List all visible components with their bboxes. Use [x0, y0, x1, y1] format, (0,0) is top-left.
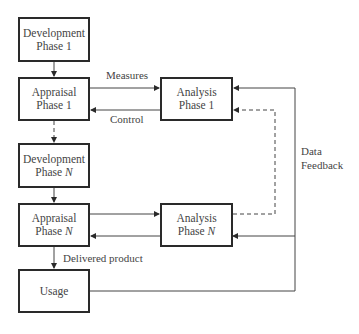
label-delivered-product: Delivered product [63, 252, 143, 264]
box-text: Phase 1 [179, 99, 214, 112]
box-text: Development [23, 153, 85, 166]
box-text: Phase N [178, 225, 215, 238]
box-text: Phase 1 [36, 99, 71, 112]
box-text: Phase N [35, 225, 72, 238]
box-development-phase-1: Development Phase 1 [18, 17, 90, 62]
box-text: Analysis [176, 86, 216, 99]
label-measures: Measures [106, 69, 148, 81]
box-text: Usage [40, 285, 69, 298]
box-development-phase-n: Development Phase N [18, 143, 90, 188]
box-text: Phase [35, 225, 65, 237]
box-text: Phase N [35, 166, 72, 179]
box-text: Appraisal [32, 86, 77, 99]
label-feedback: Feedback [301, 159, 343, 171]
box-analysis-phase-n: Analysis Phase N [160, 203, 233, 247]
box-text: Appraisal [32, 212, 77, 225]
box-text-italic: N [65, 166, 73, 178]
box-text: Phase [35, 166, 65, 178]
box-text: Phase 1 [36, 40, 71, 53]
box-appraisal-phase-n: Appraisal Phase N [18, 203, 90, 247]
box-text: Phase [178, 225, 208, 237]
box-text-italic: N [208, 225, 216, 237]
box-analysis-phase-1: Analysis Phase 1 [160, 77, 233, 121]
box-text: Analysis [176, 212, 216, 225]
label-control: Control [110, 113, 144, 125]
box-text: Development [23, 27, 85, 40]
label-data: Data [301, 145, 322, 157]
box-usage: Usage [18, 269, 90, 313]
arrow-dashed-feedback [233, 110, 275, 214]
box-text-italic: N [65, 225, 73, 237]
box-appraisal-phase-1: Appraisal Phase 1 [18, 77, 90, 121]
